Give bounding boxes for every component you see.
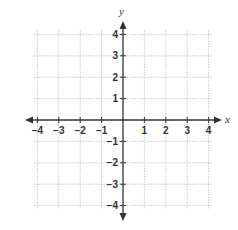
y-tick-label: 4: [112, 29, 118, 40]
y-tick-label: 2: [112, 72, 118, 83]
y-tick-label: −3: [107, 179, 119, 190]
coordinate-plane: −4−3−2−112344321−1−2−3−4 x y: [0, 0, 238, 230]
y-tick-label: 3: [112, 50, 118, 61]
x-axis-right-arrow-icon: [214, 117, 222, 124]
x-tick-label: −2: [74, 125, 86, 136]
x-tick-label: 4: [206, 125, 212, 136]
x-tick-label: −3: [53, 125, 65, 136]
x-tick-label: 2: [163, 125, 169, 136]
x-axis-label: x: [224, 113, 230, 125]
y-tick-label: −2: [107, 157, 119, 168]
x-axis-left-arrow-icon: [25, 117, 33, 124]
y-axis-up-arrow-icon: [120, 21, 127, 29]
x-tick-label: 1: [142, 125, 148, 136]
y-axis-down-arrow-icon: [120, 213, 127, 221]
x-tick-label: −4: [32, 125, 44, 136]
y-axis-label: y: [118, 5, 124, 17]
axes: [25, 21, 222, 221]
x-tick-label: 3: [184, 125, 190, 136]
y-tick-label: 1: [112, 93, 118, 104]
y-tick-label: −1: [107, 136, 119, 147]
x-tick-label: −1: [96, 125, 108, 136]
y-tick-label: −4: [107, 200, 119, 211]
